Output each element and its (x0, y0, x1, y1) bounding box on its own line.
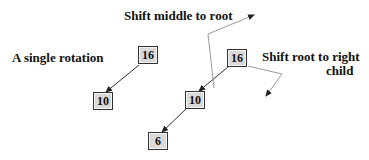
diagram-edges (0, 0, 369, 160)
tree-node-before-root: 16 (138, 46, 158, 64)
rotation-diagram: A single rotation Shift middle to root S… (0, 0, 369, 160)
diagram-title: A single rotation (12, 50, 104, 65)
tree-node-before-left-child: 10 (93, 92, 113, 110)
edge-after-10-6 (162, 109, 186, 132)
tree-node-after-root: 16 (227, 49, 247, 67)
annotation-shift-root-line1: Shift root to right (262, 49, 360, 64)
tree-node-after-left-child: 10 (185, 91, 205, 109)
edge-before-16-10 (106, 65, 139, 92)
annotation-shift-middle-to-root: Shift middle to root (124, 8, 232, 23)
arrow-shift-root-to-right-child (248, 66, 282, 96)
tree-node-after-left-grandchild: 6 (148, 132, 168, 150)
annotation-shift-root-line2: child (326, 63, 353, 78)
